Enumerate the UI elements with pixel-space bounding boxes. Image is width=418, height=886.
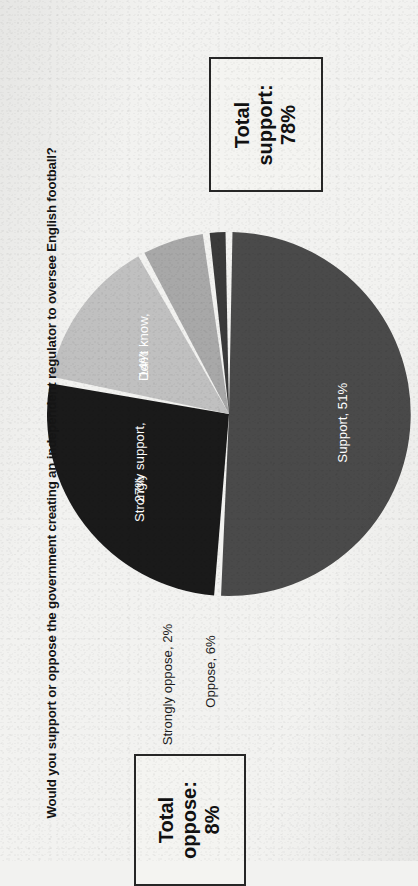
callout-total-oppose: Total oppose: 8% xyxy=(134,754,246,886)
slice-label-strongly-oppose: Strongly oppose, 2% xyxy=(160,595,175,775)
callout-total-oppose-line2: oppose: xyxy=(178,781,201,859)
callout-total-oppose-line3: 8% xyxy=(202,781,225,859)
callout-total-support-line1: Total xyxy=(231,84,254,165)
callout-total-support-text: Total support: 78% xyxy=(231,84,301,165)
slice-label-dont-know-line2: 14% xyxy=(136,351,151,378)
pie-slice-group xyxy=(47,232,411,596)
callout-total-oppose-text: Total oppose: 8% xyxy=(155,781,225,859)
page-title: Would you support or oppose the governme… xyxy=(44,0,59,819)
callout-total-oppose-line1: Total xyxy=(155,781,178,859)
slice-label-support: Support, 51% xyxy=(335,382,350,462)
slice-label-strongly-support-line1: Strongly support, xyxy=(132,422,147,522)
pie-chart: Support, 51% Strongly support, 27% Don't… xyxy=(47,232,411,596)
pie-chart-svg: Support, 51% Strongly support, 27% Don't… xyxy=(47,232,411,596)
slice-label-strongly-support-line2: 27% xyxy=(132,476,147,503)
callout-total-support-line2: support: xyxy=(254,84,277,165)
callout-total-support-line3: 78% xyxy=(278,84,301,165)
callout-total-support: Total support: 78% xyxy=(209,57,323,192)
slice-label-oppose: Oppose, 6% xyxy=(203,612,218,732)
pie-slice-support xyxy=(221,232,411,596)
